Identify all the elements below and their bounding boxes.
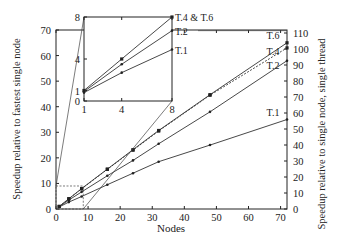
y-tick-label-right: 40 <box>293 140 304 151</box>
y-tick-label-right: 60 <box>293 108 304 119</box>
y-tick-label-left: 10 <box>41 178 52 189</box>
data-point <box>80 195 83 198</box>
x-tick-label: 70 <box>275 212 286 223</box>
inset-data-point <box>171 29 174 32</box>
y-tick-label-right: 70 <box>293 92 304 103</box>
inset-y-tick-label: 4 <box>75 54 81 65</box>
y-tick-label-left: 60 <box>41 51 52 62</box>
data-point <box>285 41 288 44</box>
data-point <box>157 129 160 132</box>
x-tick-label: 50 <box>211 212 222 223</box>
inset-x-tick-label: 4 <box>119 104 125 115</box>
data-point <box>106 183 109 186</box>
x-tick-label: 30 <box>147 212 158 223</box>
inset-frame <box>84 17 172 101</box>
data-point <box>67 197 70 200</box>
inset-series-label: T.2 <box>175 26 188 37</box>
data-point <box>106 174 109 177</box>
y-tick-label-right: 100 <box>293 44 309 55</box>
inset-data-point <box>120 63 123 66</box>
data-point <box>106 168 109 171</box>
y-tick-label-right: 80 <box>293 76 304 87</box>
inset-y-tick-label: 0 <box>75 96 80 107</box>
zoom-connector <box>83 101 172 209</box>
x-tick-label: 60 <box>243 212 254 223</box>
inset-y-tick-label: 1 <box>75 86 80 97</box>
data-point <box>286 59 289 62</box>
inset-x-tick-label: 8 <box>169 104 174 115</box>
data-point <box>157 160 160 163</box>
y-tick-label-left: 70 <box>41 25 52 36</box>
inset-series-label: T.1 <box>175 45 188 56</box>
y-axis-label-left: Speedup relative to fastest single node <box>11 38 22 200</box>
data-point <box>132 172 135 175</box>
data-point <box>58 205 61 208</box>
data-point <box>286 118 289 121</box>
data-point <box>157 142 160 145</box>
inset-plot: 1480148T.4 & T.6T.2T.1 <box>75 12 287 115</box>
data-point <box>80 191 83 194</box>
series-label: T.1 <box>267 107 280 118</box>
inset-x-tick-label: 1 <box>81 104 86 115</box>
data-point <box>209 144 212 147</box>
inset-data-point <box>171 48 174 51</box>
y-tick-label-right: 0 <box>293 204 298 215</box>
inset-data-point <box>120 71 123 74</box>
data-point <box>209 111 212 114</box>
x-tick-label: 10 <box>83 212 94 223</box>
y-axis-label-right: Speedup relative to single node, single … <box>316 38 327 230</box>
data-point <box>285 46 288 49</box>
inset-data-point <box>83 91 86 94</box>
y-tick-label-left: 40 <box>41 102 52 113</box>
y-tick-label-right: 20 <box>293 172 304 183</box>
x-tick-label: 0 <box>53 212 58 223</box>
inset-data-point <box>170 15 173 18</box>
y-tick-label-right: 30 <box>293 156 304 167</box>
series-label: T.6 <box>267 30 280 41</box>
series-line-T.1 <box>59 120 287 207</box>
inset-y-tick-label: 8 <box>75 12 80 23</box>
y-tick-label-left: 50 <box>41 76 52 87</box>
data-point <box>80 187 83 190</box>
series-label: T.2 <box>267 60 280 71</box>
y-tick-label-right: 50 <box>293 124 304 135</box>
speedup-chart: 0102030405060700102030405060700102030405… <box>0 0 342 245</box>
inset-data-point <box>120 57 123 60</box>
y-tick-label-right: 10 <box>293 188 304 199</box>
y-tick-label-left: 0 <box>46 204 51 215</box>
y-tick-label-left: 20 <box>41 153 52 164</box>
x-tick-label: 20 <box>115 212 126 223</box>
y-tick-label-left: 30 <box>41 127 52 138</box>
data-point <box>132 159 135 162</box>
data-point <box>208 93 211 96</box>
x-axis-label: Nodes <box>157 222 185 234</box>
y-tick-label-right: 90 <box>293 60 304 71</box>
inset-series-label: T.4 & T.6 <box>175 12 213 23</box>
y-tick-label-right: 110 <box>293 28 308 39</box>
